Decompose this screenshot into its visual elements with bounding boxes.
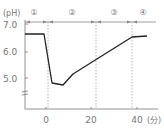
y-ticks bbox=[25, 24, 28, 78]
phase-3-label: ③ bbox=[110, 8, 117, 17]
x-axis-label: (分) bbox=[147, 116, 161, 125]
x-tick-0: 0 bbox=[43, 115, 49, 125]
y-tick-7: 7.0 bbox=[3, 20, 18, 30]
phase-2-label: ② bbox=[68, 8, 75, 17]
y-tick-5: 5.0 bbox=[3, 74, 18, 84]
x-tick-20: 20 bbox=[85, 115, 97, 125]
y-tick-6: 6.0 bbox=[3, 47, 18, 57]
phase-1-label: ① bbox=[30, 8, 37, 17]
ph-chart: (pH) ① ② ③ ④ 7.0 6.0 5.0 0 bbox=[0, 0, 164, 129]
phase-boundaries bbox=[48, 22, 132, 109]
y-axis-label: (pH) bbox=[3, 9, 20, 18]
x-tick-40: 40 bbox=[131, 115, 143, 125]
phase-4-label: ④ bbox=[139, 8, 146, 17]
ph-series-line bbox=[25, 34, 147, 85]
